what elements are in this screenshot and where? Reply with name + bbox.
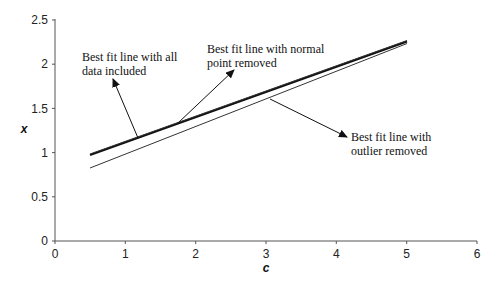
- chart: 0 0.5 1 1.5 2 2.5 0 1 2 3 4 5 6 c x Best…: [0, 0, 501, 282]
- y-tick-label: 2.5: [31, 13, 48, 27]
- y-tick-label: 1.5: [31, 102, 48, 116]
- annotation-normal-removed: Best fit line with normal point removed: [207, 42, 327, 70]
- x-tick-label: 5: [403, 247, 410, 261]
- x-tick-label: 3: [263, 247, 270, 261]
- y-tick-label: 1: [41, 146, 48, 160]
- y-tick-label: 0.5: [31, 190, 48, 204]
- x-tick-label: 4: [333, 247, 340, 261]
- x-tick-label: 1: [122, 247, 129, 261]
- y-tick-label: 2: [41, 57, 48, 71]
- annotation-all-data: Best fit line with all data included: [82, 50, 180, 78]
- x-tick-label: 2: [192, 247, 199, 261]
- annotation-arrow-all-data: [113, 79, 138, 138]
- y-tick-label: 0: [41, 234, 48, 248]
- x-axis-title: c: [263, 261, 270, 275]
- x-tick-label: 0: [52, 247, 59, 261]
- y-axis-title: x: [20, 122, 29, 136]
- annotation-outlier-removed: Best fit line with outlier removed: [351, 130, 434, 158]
- annotation-arrow-outlier-removed: [270, 99, 347, 137]
- x-tick-label: 6: [474, 247, 481, 261]
